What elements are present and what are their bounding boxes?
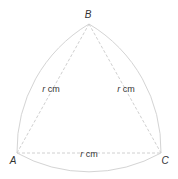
side-label-ab-unit: cm [45, 84, 60, 94]
side-label-ac-unit: cm [83, 149, 98, 159]
side-label-bc-unit: cm [120, 84, 135, 94]
side-length-labels: r cm r cm r cm [42, 84, 135, 159]
side-label-ac: r cm [80, 149, 98, 159]
vertex-label-b: B [85, 9, 92, 20]
vertex-label-a: A [9, 155, 17, 166]
triangle-chords [17, 24, 161, 153]
vertex-label-c: C [161, 155, 169, 166]
reuleaux-triangle-diagram: B A C r cm r cm r cm [0, 0, 178, 179]
side-label-ab: r cm [42, 84, 60, 94]
vertex-labels: B A C [9, 9, 170, 166]
side-label-bc: r cm [117, 84, 135, 94]
